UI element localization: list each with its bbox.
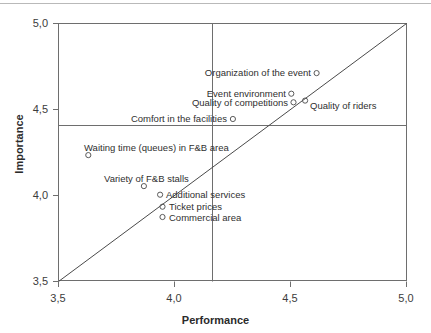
point-label-quality-of-competitions: Quality of competitions <box>163 98 288 108</box>
x-tick-label-3-5: 3,5 <box>38 292 78 304</box>
x-tick-label-4-5: 4,5 <box>270 292 310 304</box>
data-point-marker <box>291 100 296 105</box>
point-label-organization-of-the-event: Organization of the event <box>174 68 311 78</box>
data-point-marker <box>289 91 294 96</box>
plot-canvas <box>0 0 431 333</box>
data-point-marker <box>314 71 319 76</box>
y-tick-label-3-5: 3,5 <box>8 275 48 287</box>
x-tick-label-5-0: 5,0 <box>386 292 426 304</box>
y-axis-ticks <box>53 24 59 282</box>
data-point-marker <box>230 116 235 121</box>
data-point-marker <box>158 192 163 197</box>
point-label-waiting-time-queues-in-fb-area: Waiting time (queues) in F&B area <box>84 143 229 153</box>
point-label-commercial-area: Commercial area <box>169 213 241 223</box>
importance-performance-chart: 5,0 4,5 4,0 3,5 3,5 4,0 4,5 5,0 Performa… <box>0 0 431 333</box>
point-label-additional-services: Additional services <box>166 190 245 200</box>
x-axis-title: Performance <box>0 314 431 326</box>
x-axis-ticks <box>59 282 407 288</box>
data-point-marker <box>141 184 146 189</box>
data-point-marker <box>86 153 91 158</box>
point-label-ticket-prices: Ticket prices <box>169 202 222 212</box>
point-label-variety-of-fb-stalls: Variety of F&B stalls <box>104 174 189 184</box>
y-axis-title: Importance <box>13 89 25 199</box>
point-label-comfort-in-the-facilities: Comfort in the facilities <box>123 114 227 124</box>
data-point-marker <box>160 214 165 219</box>
y-tick-label-5-0: 5,0 <box>8 17 48 29</box>
point-label-quality-of-riders: Quality of riders <box>310 101 377 111</box>
x-tick-label-4-0: 4,0 <box>154 292 194 304</box>
